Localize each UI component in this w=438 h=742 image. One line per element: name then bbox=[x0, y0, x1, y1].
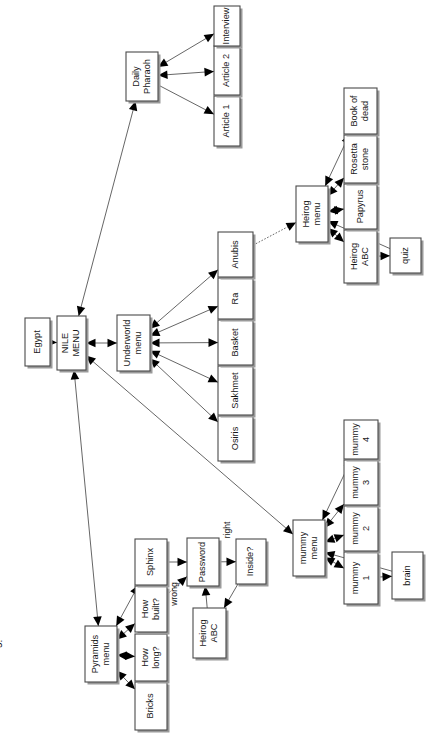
node-label: brain bbox=[402, 565, 412, 585]
node-brain[interactable]: brain bbox=[392, 552, 426, 602]
node-how-long[interactable]: Howlong? bbox=[135, 634, 170, 684]
node-ra[interactable]: Ra bbox=[218, 278, 256, 322]
node-heirog-abc-2[interactable]: HeirogABC bbox=[193, 608, 229, 661]
edge-label-right: right bbox=[222, 521, 232, 538]
node-label: Sakhmet bbox=[230, 372, 240, 409]
node-label: Howbuilt? bbox=[140, 598, 161, 620]
node-article-2[interactable]: Article 2 bbox=[214, 46, 243, 98]
node-label: Howlong? bbox=[140, 646, 161, 668]
node-label: Bricks bbox=[145, 693, 155, 718]
node-heirog-menu[interactable]: Heirogmenu bbox=[296, 186, 331, 245]
node-anubis[interactable]: Anubis bbox=[218, 232, 256, 280]
sitemap-diagram: EgyptNILEMENUDailyPharaohArticle 1Articl… bbox=[0, 0, 438, 742]
node-inside[interactable]: Inside? bbox=[236, 539, 269, 587]
node-label: Inside? bbox=[245, 547, 255, 577]
node-rosetta-stone[interactable]: Rosettastone bbox=[344, 135, 380, 186]
node-mummy-4[interactable]: mummy4 bbox=[344, 420, 381, 462]
node-label: Ra bbox=[230, 292, 240, 305]
diagram-canvas: EgyptNILEMENUDailyPharaohArticle 1Articl… bbox=[0, 0, 438, 742]
node-article-1[interactable]: Article 1 bbox=[214, 96, 243, 149]
node-nile-menu[interactable]: NILEMENU bbox=[57, 316, 89, 373]
node-password[interactable]: Password bbox=[187, 538, 222, 589]
node-papyrus[interactable]: Papyrus bbox=[344, 184, 380, 232]
node-sakhmet[interactable]: Sakhmet bbox=[218, 366, 256, 418]
node-label: Anubis bbox=[230, 240, 240, 268]
node-basket[interactable]: Basket bbox=[218, 320, 256, 368]
node-egypt[interactable]: Egypt bbox=[25, 318, 53, 369]
node-mummy-1[interactable]: mummy1 bbox=[344, 552, 381, 607]
node-label: Heirogmenu bbox=[301, 200, 322, 227]
node-label: Article 2 bbox=[221, 54, 231, 87]
node-label: Papyrus bbox=[355, 189, 365, 223]
node-label: NILEMENU bbox=[60, 329, 81, 356]
node-sphinx[interactable]: Sphinx bbox=[135, 539, 170, 588]
node-mummy-3[interactable]: mummy3 bbox=[344, 460, 381, 508]
node-mummy-menu[interactable]: mummymenu bbox=[293, 520, 328, 579]
node-underworld-menu[interactable]: Underworldmenu bbox=[117, 315, 153, 374]
node-daily-pharaoh[interactable]: DailyPharaoh bbox=[126, 52, 161, 104]
node-label: Interview bbox=[221, 7, 231, 44]
node-mummy-2[interactable]: mummy2 bbox=[344, 506, 381, 554]
node-pyramids-menu[interactable]: Pyramidsmenu bbox=[85, 626, 120, 685]
caption-fragment: 5. bbox=[0, 640, 4, 648]
node-quiz[interactable]: quiz bbox=[390, 238, 424, 276]
node-label: Sphinx bbox=[145, 548, 155, 576]
node-label: Article 1 bbox=[221, 104, 231, 137]
node-label: Password bbox=[197, 542, 207, 582]
node-interview[interactable]: Interview bbox=[214, 6, 243, 49]
node-label: Osiris bbox=[230, 426, 240, 450]
node-osiris[interactable]: Osiris bbox=[218, 416, 256, 464]
node-book-of-dead[interactable]: Book ofdead bbox=[344, 88, 380, 137]
node-heirog-abc[interactable]: HeirogABC bbox=[344, 230, 380, 286]
node-how-built[interactable]: Howbuilt? bbox=[135, 586, 170, 635]
node-bricks[interactable]: Bricks bbox=[135, 682, 170, 733]
node-label: Basket bbox=[230, 328, 240, 357]
edge-label-wrong: wrong bbox=[169, 582, 179, 607]
node-label: Egypt bbox=[32, 330, 42, 354]
node-label: quiz bbox=[400, 247, 410, 264]
